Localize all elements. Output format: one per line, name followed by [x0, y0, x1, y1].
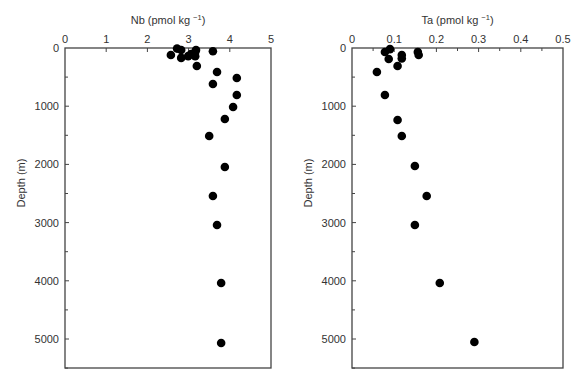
- data-point: [414, 51, 423, 60]
- y-tick-label: 2000: [35, 158, 59, 170]
- depth-profile-figure: 012345010002000300040005000Nb (pmol kg −…: [0, 0, 583, 385]
- x-axis-title: Ta (pmol kg −1): [421, 13, 493, 26]
- x-tick-label: 0: [62, 33, 68, 45]
- y-tick-label: 3000: [35, 217, 59, 229]
- data-point: [209, 192, 218, 201]
- y-tick-label: 0: [53, 42, 59, 54]
- x-tick-label: 0.1: [387, 33, 402, 45]
- data-point: [393, 116, 402, 125]
- data-point: [422, 192, 431, 201]
- x-tick-label: 3: [186, 33, 192, 45]
- data-point: [193, 62, 202, 71]
- x-tick-label: 0.4: [513, 33, 528, 45]
- x-tick-label: 4: [227, 33, 233, 45]
- y-tick-label: 0: [340, 42, 346, 54]
- x-tick-label: 0.5: [555, 33, 570, 45]
- y-tick-label: 1000: [322, 100, 346, 112]
- y-tick-label: 1000: [35, 100, 59, 112]
- data-point: [411, 162, 420, 171]
- panel-left: 012345010002000300040005000Nb (pmol kg −…: [15, 13, 274, 368]
- x-tick-label: 0.3: [471, 33, 486, 45]
- data-point: [384, 55, 393, 64]
- data-point: [229, 103, 238, 112]
- data-point: [191, 52, 200, 61]
- y-axis-title: Depth (m): [302, 159, 314, 208]
- data-point: [221, 163, 230, 172]
- data-point: [233, 74, 242, 83]
- y-axis-title: Depth (m): [15, 159, 27, 208]
- data-point: [209, 80, 218, 89]
- y-tick-label: 5000: [322, 333, 346, 345]
- x-tick-label: 0.2: [429, 33, 444, 45]
- data-point: [411, 221, 420, 230]
- data-point: [397, 132, 406, 141]
- y-tick-label: 4000: [322, 275, 346, 287]
- x-tick-label: 1: [103, 33, 109, 45]
- x-tick-label: 5: [268, 33, 274, 45]
- data-point: [205, 132, 214, 141]
- data-point: [435, 279, 444, 288]
- y-tick-label: 5000: [35, 333, 59, 345]
- x-tick-label: 2: [144, 33, 150, 45]
- panel-right: 00.10.20.30.40.5010002000300040005000Ta …: [302, 13, 571, 368]
- data-point: [209, 47, 218, 56]
- data-point: [386, 45, 395, 54]
- x-tick-label: 0: [349, 33, 355, 45]
- data-point: [397, 54, 406, 63]
- data-point: [217, 279, 226, 288]
- data-point: [177, 46, 186, 55]
- data-point: [373, 68, 382, 77]
- data-point: [221, 115, 230, 124]
- x-axis-title: Nb (pmol kg −1): [131, 13, 206, 26]
- data-point: [167, 51, 176, 60]
- y-tick-label: 3000: [322, 217, 346, 229]
- data-point: [217, 339, 226, 348]
- y-tick-label: 2000: [322, 158, 346, 170]
- data-point: [393, 62, 402, 71]
- data-point: [233, 91, 242, 100]
- data-point: [213, 68, 222, 77]
- data-point: [381, 91, 390, 100]
- y-tick-label: 4000: [35, 275, 59, 287]
- data-point: [213, 221, 222, 230]
- data-point: [470, 338, 479, 347]
